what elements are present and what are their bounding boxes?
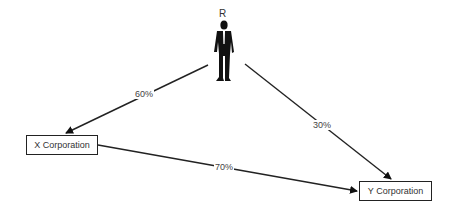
x-corporation-label: X Corporation (34, 140, 90, 150)
x-corporation-box: X Corporation (26, 135, 98, 155)
edge-r-to-x (66, 65, 208, 133)
person-label: R (219, 8, 226, 19)
edge-label-30: 30% (312, 120, 332, 130)
edge-label-60: 60% (134, 89, 154, 99)
y-corporation-label: Y Corporation (368, 186, 423, 196)
edge-label-70: 70% (214, 162, 234, 172)
y-corporation-box: Y Corporation (359, 181, 432, 201)
person-icon (212, 20, 236, 82)
